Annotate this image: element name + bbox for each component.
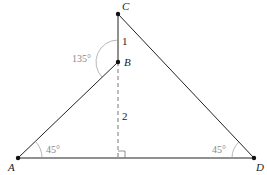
angle-arc-A bbox=[35, 141, 42, 158]
angle-arc-D bbox=[232, 142, 239, 158]
point-A bbox=[16, 156, 20, 160]
label-D: D bbox=[255, 161, 264, 173]
label-C: C bbox=[122, 0, 130, 12]
geometry-diagram: A B C D 1 2 45° 45° 135° bbox=[0, 0, 267, 175]
right-angle-marker bbox=[118, 151, 125, 158]
length-B-foot: 2 bbox=[122, 110, 128, 122]
angle-arc-B bbox=[96, 40, 118, 77]
point-B bbox=[116, 60, 120, 64]
label-A: A bbox=[7, 161, 15, 173]
length-CB: 1 bbox=[122, 35, 128, 47]
point-C bbox=[116, 12, 120, 16]
angle-label-A: 45° bbox=[46, 144, 60, 155]
point-D bbox=[252, 156, 256, 160]
angle-label-B: 135° bbox=[72, 53, 91, 64]
label-B: B bbox=[124, 56, 131, 68]
segment-AB bbox=[18, 62, 118, 158]
segment-CD bbox=[118, 14, 254, 158]
angle-label-D: 45° bbox=[212, 144, 226, 155]
